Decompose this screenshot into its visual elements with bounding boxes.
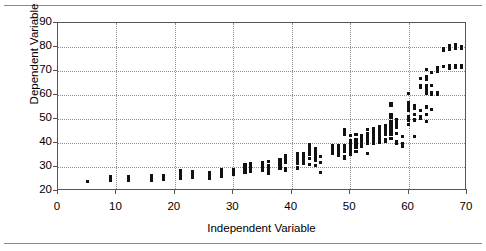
gridline-horizontal xyxy=(58,119,465,120)
data-point xyxy=(425,120,428,123)
gridline-horizontal xyxy=(58,71,465,72)
y-tick-label: 50 xyxy=(20,112,52,124)
y-tick-label: 40 xyxy=(20,136,52,148)
plot-area xyxy=(57,22,466,190)
data-point xyxy=(430,84,433,87)
data-point xyxy=(314,164,317,167)
data-point xyxy=(319,155,322,158)
data-point xyxy=(413,118,416,121)
data-point xyxy=(337,144,340,147)
data-point xyxy=(395,118,398,121)
data-point xyxy=(284,167,287,170)
data-point xyxy=(395,132,398,135)
x-axis-label: Independent Variable xyxy=(57,222,466,234)
x-tick-mark xyxy=(466,189,467,194)
data-point xyxy=(191,170,194,173)
data-point xyxy=(343,133,346,136)
data-point xyxy=(454,64,457,67)
data-point xyxy=(308,163,311,166)
data-point xyxy=(296,152,299,155)
data-point xyxy=(436,66,439,69)
data-point xyxy=(460,45,463,48)
x-tick-label: 0 xyxy=(37,201,77,213)
data-point xyxy=(407,123,410,126)
data-point xyxy=(442,47,445,50)
data-point xyxy=(389,120,392,123)
data-point xyxy=(372,127,375,130)
data-point xyxy=(407,101,410,104)
data-point xyxy=(354,133,357,136)
data-point xyxy=(366,128,369,131)
data-point xyxy=(366,132,369,135)
data-point xyxy=(389,102,392,105)
gridline-vertical xyxy=(116,23,117,189)
data-point xyxy=(109,175,112,178)
data-point xyxy=(354,138,357,141)
data-point xyxy=(448,44,451,47)
data-point xyxy=(86,180,89,183)
data-point xyxy=(296,166,299,169)
x-tick-label: 10 xyxy=(95,201,135,213)
data-point xyxy=(249,162,252,165)
data-point xyxy=(296,162,299,165)
data-point xyxy=(460,64,463,67)
data-point xyxy=(343,128,346,131)
data-point xyxy=(127,175,130,178)
data-point xyxy=(349,139,352,142)
data-point xyxy=(419,115,422,118)
data-point xyxy=(413,113,416,116)
data-point xyxy=(384,124,387,127)
data-point xyxy=(407,115,410,118)
x-tick-label: 60 xyxy=(388,201,428,213)
data-point xyxy=(448,64,451,67)
y-tick-label: 30 xyxy=(20,160,52,172)
data-point xyxy=(267,164,270,167)
data-point xyxy=(243,163,246,166)
data-point xyxy=(179,169,182,172)
data-point xyxy=(378,125,381,128)
data-point xyxy=(284,154,287,157)
data-point xyxy=(208,171,211,174)
y-tick-label: 20 xyxy=(20,184,52,196)
data-point xyxy=(401,142,404,145)
x-tick-label: 20 xyxy=(154,201,194,213)
data-point xyxy=(349,152,352,155)
data-point xyxy=(372,130,375,133)
data-point xyxy=(354,150,357,153)
data-point xyxy=(343,155,346,158)
data-point xyxy=(436,69,439,72)
data-point xyxy=(308,157,311,160)
data-point xyxy=(389,116,392,119)
data-point xyxy=(267,160,270,163)
data-point xyxy=(430,108,433,111)
gridline-horizontal xyxy=(58,95,465,96)
data-point xyxy=(395,140,398,143)
data-point xyxy=(419,84,422,87)
top-divider-rule xyxy=(4,5,482,6)
data-point xyxy=(389,137,392,140)
data-point xyxy=(454,43,457,46)
data-point xyxy=(425,113,428,116)
data-point xyxy=(343,144,346,147)
data-point xyxy=(401,145,404,148)
gridline-vertical xyxy=(350,23,351,189)
data-point xyxy=(331,144,334,147)
data-point xyxy=(314,147,317,150)
data-point xyxy=(366,152,369,155)
data-point xyxy=(360,134,363,137)
data-point xyxy=(384,138,387,141)
data-point xyxy=(448,67,451,70)
data-point xyxy=(425,105,428,108)
data-point xyxy=(401,135,404,138)
gridline-vertical xyxy=(233,23,234,189)
data-point xyxy=(407,92,410,95)
data-point xyxy=(308,143,311,146)
data-point xyxy=(308,146,311,149)
data-point xyxy=(425,68,428,71)
x-tick-label: 30 xyxy=(212,201,252,213)
data-point xyxy=(278,158,281,161)
data-point xyxy=(319,171,322,174)
data-point xyxy=(232,168,235,171)
data-point xyxy=(413,135,416,138)
scatter-plot-figure: Dependent Variable Independent Variable … xyxy=(0,0,486,251)
